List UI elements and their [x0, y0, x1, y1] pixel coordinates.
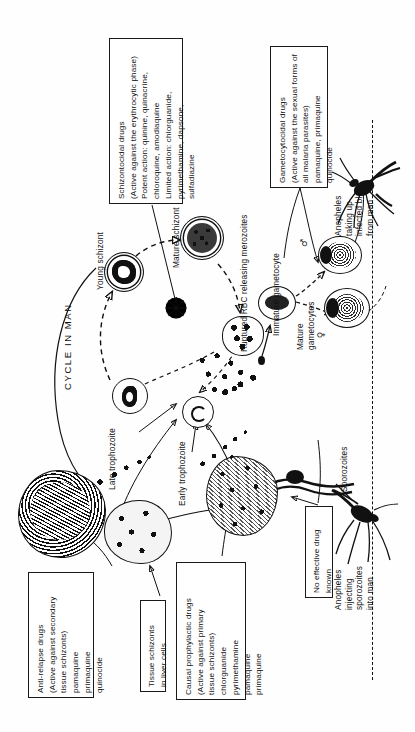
cycle-in-man-label: CYCLE IN MAN — [62, 303, 74, 390]
anti-relapse-drugs-text: Anti-relapse drugs (Active against secon… — [35, 597, 105, 693]
no-effective-drug-text: No effective drug known — [311, 529, 334, 593]
tissue-schizonts-box[interactable]: Tissue schizonts in liver cells — [140, 600, 166, 692]
ring-form-nucleus — [191, 406, 207, 422]
young-schizont-center — [118, 266, 130, 278]
hepatic-mass-inner — [30, 482, 90, 540]
mature-schizont-merozoite-mass — [187, 223, 217, 253]
label-early-trophozoite: Early trophozoite — [178, 441, 189, 506]
merozoite-to-gametocyte — [258, 356, 265, 365]
label-young-schizont: Young schizont — [96, 232, 107, 290]
late-trophozoite-vacuole — [126, 392, 133, 402]
causal-prophylactic-drugs-text: Causal prophylactic drugs (Active agains… — [183, 598, 265, 695]
female-symbol: ♀ — [316, 332, 326, 339]
schizontocidal-drugs-text: Schizontocidal drugs (Active against the… — [116, 56, 198, 199]
label-mature-schizont: Mature schizont — [172, 207, 183, 268]
gametocytocidal-drugs-box[interactable]: Gametocytocidal drugs (Active against th… — [270, 46, 328, 188]
male-symbol: ♂ — [299, 239, 309, 247]
invading-merozoites — [218, 374, 258, 400]
no-effective-drug-box[interactable]: No effective drug known — [305, 506, 333, 598]
anti-relapse-drugs-box[interactable]: Anti-relapse drugs (Active against secon… — [28, 572, 94, 698]
cell-secondary-tissue-schizont — [104, 500, 172, 564]
label-sporozoites: Sporozoites — [340, 447, 351, 492]
label-mature-gametocytes: Maturegametocytes — [296, 301, 317, 350]
label-anopheles-injecting: Anophelesinjectingsporozoitesinto man — [334, 566, 376, 610]
schizontocidal-drugs-box[interactable]: Schizontocidal drugs (Active against the… — [109, 38, 183, 204]
causal-prophylactic-drugs-box[interactable]: Causal prophylactic drugs (Active agains… — [176, 562, 246, 700]
label-immature-gametocyte: Immature gametocyte — [272, 253, 283, 336]
gametocytocidal-drugs-text: Gametocytocidal drugs (Active against th… — [277, 54, 336, 183]
label-late-trophozoite: Late trophozoite — [108, 428, 119, 490]
hepatic-merozoite-trail — [94, 454, 154, 494]
label-anopheles-taking-up: Anophelestaking upinfected bloodfrom man — [334, 182, 376, 236]
label-ruptured-rbc: Ruptured RBC releasing merozoites — [240, 214, 251, 352]
male-gametocyte-pigment — [320, 246, 332, 264]
tissue-schizonts-text: Tissue schizonts in liver cells — [146, 625, 169, 687]
liver-merozoite-trail — [196, 426, 252, 470]
female-gametocyte-pigment — [326, 298, 339, 318]
liver-cell-nucleus — [286, 470, 304, 484]
figure-canvas: Schizontocidal drugs (Active against the… — [0, 0, 415, 732]
